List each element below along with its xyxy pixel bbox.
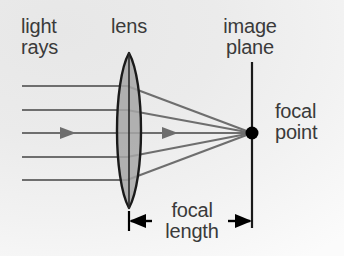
lens-focal-length-diagram: light rays lens image plane focal point … (0, 0, 344, 256)
lens-label: lens (97, 16, 161, 37)
focal-point-label: focal point (275, 101, 317, 143)
image-plane-label: image plane (206, 16, 294, 58)
focal-point-dot (246, 127, 259, 140)
refracted-ray-arrowhead-icon (162, 127, 178, 139)
refracted-rays-group (127, 86, 252, 180)
focal-length-left-arrowhead-icon (129, 214, 146, 228)
refracted-ray-4 (127, 133, 252, 157)
light-rays-label: light rays (21, 16, 58, 58)
refracted-ray-2 (127, 110, 252, 133)
refracted-ray-1 (127, 86, 252, 133)
incoming-ray-arrowhead-icon (60, 127, 76, 139)
refracted-ray-5 (127, 133, 252, 180)
focal-length-label: focal length (146, 200, 238, 242)
